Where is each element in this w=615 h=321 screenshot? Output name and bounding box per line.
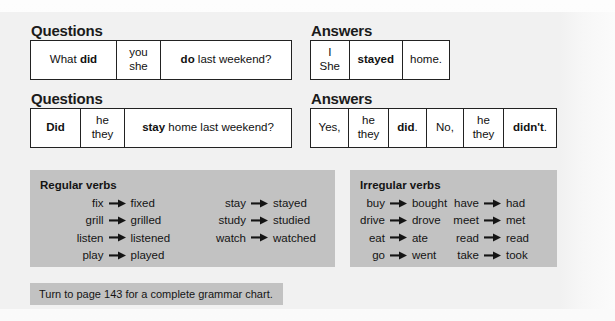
arrow-right-icon [484,216,501,225]
panel-irregular-verbs: Irregular verbs buyboughtdrivedroveeatat… [350,170,557,267]
cell-text: home. [410,53,442,67]
arrow-right-icon [109,199,126,208]
arrow-right-icon [390,199,407,208]
cell-text: No, [436,121,454,135]
cell-answer-2-didnt: didn't. [504,109,556,147]
cell-answer-2-did: did. [389,109,427,147]
regular-verbs-columns: fixfixedgrillgrilledlistenlistenedplaypl… [40,196,325,263]
arrow-right-icon [109,251,126,260]
verb-base-form: study [219,213,247,227]
verb-column-2: staystayedstudystudiedwatchwatched [183,196,326,263]
verb-past-form: went [412,248,454,262]
cell-question-1-predicate: do last weekend? [161,41,291,79]
verb-past-form: read [506,231,548,245]
cell-answer-1-verb: stayed [350,41,404,79]
cell-question-2-predicate: stay home last weekend? [125,109,291,147]
verb-pair: gowent [360,248,454,262]
verb-base-form: meet [453,213,479,227]
cell-question-1-pronouns: youshe [117,41,161,79]
verb-past-form: drove [412,213,454,227]
cell-answer-2-no: No, [427,109,464,147]
cell-text: do last weekend? [181,53,272,67]
verb-pair: grillgrilled [40,213,183,227]
verb-base-form: drive [360,213,385,227]
arrow-right-icon [390,251,407,260]
verb-base-form: read [456,231,479,245]
verb-base-form: play [82,248,103,262]
cell-line: he [362,114,375,128]
verb-past-form: fixed [131,196,183,210]
verb-pair: buybought [360,196,454,210]
arrow-right-icon [109,216,126,225]
arrow-right-icon [484,251,501,260]
cell-text: stayed [358,53,394,67]
heading-questions-2: Questions [31,90,103,107]
verb-base-form: buy [366,196,385,210]
verb-column-1: buyboughtdrivedroveeatategowent [360,196,454,263]
cell-text: stay home last weekend? [142,121,274,135]
cell-line: She [320,60,340,74]
cell-answer-2-pronouns-affirmative: hethey [349,109,389,147]
verb-past-form: played [131,248,183,262]
table-question-2: Did hethey stay home last weekend? [30,108,292,148]
cell-answer-2-pronouns-negative: hethey [464,109,504,147]
cell-line: they [92,128,114,142]
verb-base-form: fix [92,196,104,210]
panel-regular-verbs: Regular verbs fixfixedgrillgrilledlisten… [30,170,335,267]
arrow-right-icon [109,233,126,242]
verb-pair: taketook [454,248,548,262]
verb-base-form: listen [77,231,104,245]
arrow-right-icon [390,233,407,242]
verb-base-form: go [372,248,385,262]
cell-text: Yes, [319,121,341,135]
cell-line: she [129,60,148,74]
cell-line: I [328,46,331,60]
cell-text: didn't. [513,121,547,135]
verb-base-form: watch [216,231,246,245]
table-question-1: What did youshe do last weekend? [30,40,292,80]
verb-pair: drivedrove [360,213,454,227]
verb-pair: listenlistened [40,231,183,245]
verb-pair: playplayed [40,248,183,262]
verb-past-form: bought [412,196,454,210]
verb-base-form: take [457,248,479,262]
heading-questions-1: Questions [31,22,103,39]
irregular-verbs-columns: buyboughtdrivedroveeatategowenthavehadme… [360,196,547,263]
arrow-right-icon [484,199,501,208]
verb-pair: watchwatched [183,231,326,245]
verb-pair: fixfixed [40,196,183,210]
verb-past-form: took [506,248,548,262]
verb-past-form: watched [273,231,325,245]
verb-past-form: studied [273,213,325,227]
cell-text: What did [50,53,97,67]
verb-base-form: grill [86,213,104,227]
cell-line: they [358,128,380,142]
footer-note: Turn to page 143 for a complete grammar … [30,283,283,305]
cell-answer-1-pronouns: IShe [311,41,350,79]
verb-past-form: had [506,196,548,210]
verb-pair: havehad [454,196,548,210]
verb-base-form: eat [369,231,385,245]
table-answer-1: IShe stayed home. [310,40,450,80]
panel-regular-verbs-title: Regular verbs [40,179,325,191]
arrow-right-icon [251,199,268,208]
verb-past-form: grilled [131,213,183,227]
verb-past-form: met [506,213,548,227]
arrow-right-icon [390,216,407,225]
verb-pair: eatate [360,231,454,245]
cell-line: he [96,114,109,128]
cell-answer-1-complement: home. [403,41,449,79]
cell-question-2-aux: Did [31,109,81,147]
verb-past-form: listened [131,231,183,245]
verb-pair: staystayed [183,196,326,210]
cell-line: he [477,114,490,128]
cell-answer-2-yes: Yes, [311,109,349,147]
heading-answers-1: Answers [311,22,372,39]
arrow-right-icon [251,233,268,242]
table-answer-2: Yes, hethey did. No, hethey didn't. [310,108,557,148]
verb-column-1: fixfixedgrillgrilledlistenlistenedplaypl… [40,196,183,263]
panel-irregular-verbs-title: Irregular verbs [360,179,547,191]
arrow-right-icon [251,216,268,225]
verb-base-form: have [454,196,479,210]
cell-question-2-pronouns: hethey [81,109,125,147]
